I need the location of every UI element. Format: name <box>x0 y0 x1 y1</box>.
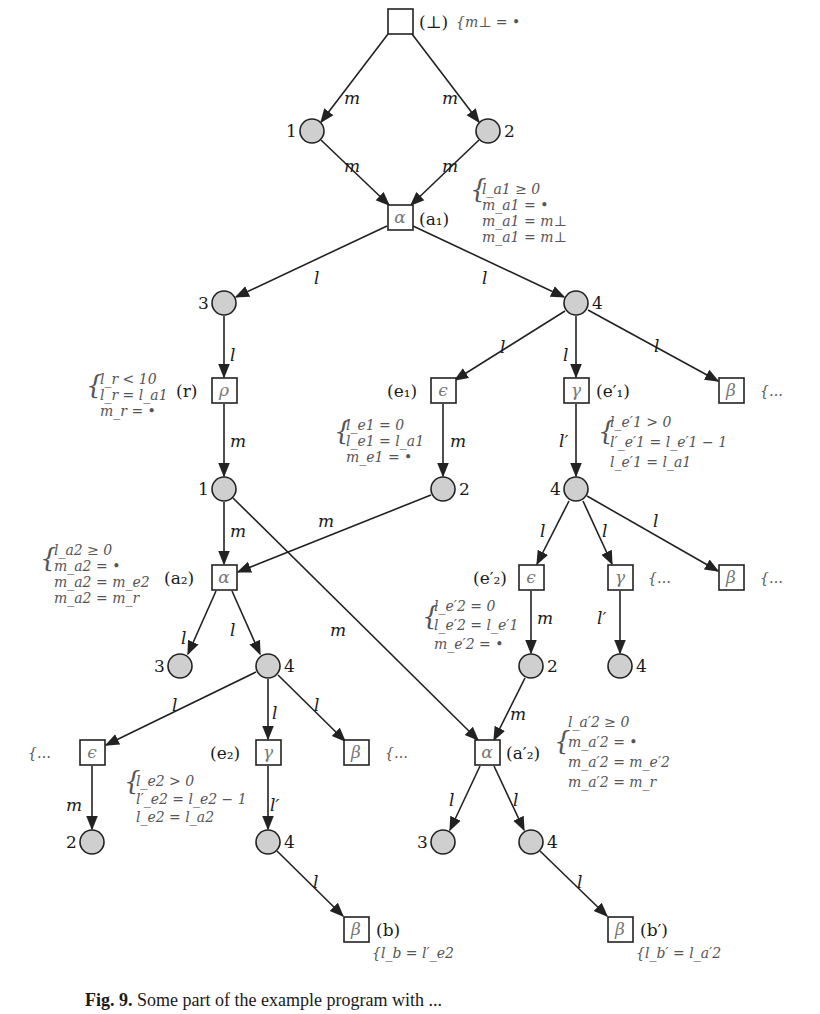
transition-label: (⊥) <box>419 12 448 32</box>
place-node[interactable] <box>564 291 588 315</box>
gamma-symbol: γ <box>263 742 274 762</box>
beta-symbol: β <box>350 919 361 939</box>
constraint-line: {l_b = l′_e2 <box>372 945 454 962</box>
edge-label: l′ <box>597 608 606 628</box>
edge-label: l <box>602 521 607 541</box>
constraint-line: l_a′2 ≥ 0 <box>568 714 630 731</box>
edge-label: m <box>318 511 334 531</box>
alpha-symbol: α <box>394 207 406 227</box>
constraint-line: m_a′2 = m_r <box>568 774 658 791</box>
edge-label: l′ <box>270 795 279 815</box>
place-node[interactable] <box>431 477 455 501</box>
constraint-line: m_a1 = m⊥ <box>482 213 567 230</box>
edge-a2p-n4 <box>494 766 524 830</box>
place-label: 4 <box>636 656 647 676</box>
transition-label: (e₁) <box>387 381 417 401</box>
place-node[interactable] <box>564 477 588 501</box>
edge-label: l <box>500 337 505 357</box>
edge-n4-gamma <box>583 501 612 564</box>
ellipsis: {… <box>385 745 408 761</box>
caption-label: Fig. 9. <box>85 990 133 1010</box>
constraint-line: l_e2 = l_a2 <box>136 809 214 826</box>
place-label: 2 <box>66 832 77 852</box>
edge-label: l <box>172 695 177 715</box>
edge-label: m <box>537 608 553 628</box>
edge-label: m <box>442 156 458 176</box>
beta-symbol: β <box>725 380 736 400</box>
place-label: 4 <box>547 832 558 852</box>
place-label: 4 <box>284 832 295 852</box>
transition-label: (r) <box>176 381 197 401</box>
edge-label: m <box>230 521 246 541</box>
constraint-line: m_a1 = • <box>482 197 548 214</box>
place-label: 2 <box>459 479 470 499</box>
edge-n4-bp <box>540 851 607 916</box>
place-label: 4 <box>550 479 561 499</box>
edge-label: l <box>654 336 659 356</box>
edge-label: l <box>513 790 518 810</box>
edge-label: m <box>510 704 526 724</box>
edge-label: l <box>482 268 487 288</box>
edge-bot-n1 <box>321 34 388 122</box>
place-node[interactable] <box>519 654 543 678</box>
edge-label: m <box>330 620 346 640</box>
place-node[interactable] <box>519 830 543 854</box>
edge-label: l <box>540 521 545 541</box>
transition-label: (a₁) <box>419 209 449 229</box>
constraint-line: l_e′2 = l_e′1 <box>434 617 518 634</box>
edge-n4-beta <box>588 310 718 381</box>
alpha-symbol: α <box>481 742 493 762</box>
constraint-line: m_e′2 = • <box>434 636 504 653</box>
place-label: 1 <box>198 479 209 499</box>
edge-label: l <box>314 695 319 715</box>
transition-label: (b) <box>376 920 400 940</box>
beta-symbol: β <box>614 919 625 939</box>
edge-n4-e1 <box>455 311 565 380</box>
edge-label: l <box>563 345 568 365</box>
place-node[interactable] <box>256 830 280 854</box>
edge-a2p-n3 <box>450 766 480 830</box>
edge-a2-n4 <box>232 591 260 654</box>
place-node[interactable] <box>168 654 192 678</box>
edge-label: m <box>450 431 466 451</box>
place-node[interactable] <box>608 654 632 678</box>
edge-label: l <box>230 345 235 365</box>
figure-caption: Fig. 9. Some part of the example program… <box>85 990 442 1011</box>
place-node[interactable] <box>212 291 236 315</box>
gamma-symbol: γ <box>615 567 626 587</box>
constraint-line: l_e′2 = 0 <box>434 598 495 615</box>
place-node[interactable] <box>256 654 280 678</box>
transition-bottom[interactable] <box>388 9 413 34</box>
ellipsis: {… <box>760 570 783 586</box>
place-node[interactable] <box>80 830 104 854</box>
constraint-line: {l_b′ = l_a′2 <box>636 945 721 962</box>
edge-n4-b <box>277 851 343 916</box>
constraint-line: m_a1 = m⊥ <box>482 229 567 246</box>
place-label: 3 <box>154 656 165 676</box>
edge-label: l <box>653 511 658 531</box>
place-label: 4 <box>592 293 603 313</box>
epsilon-symbol: ϵ <box>438 380 448 400</box>
edge-label: l <box>181 628 186 648</box>
constraint-line: m_e1 = • <box>346 449 412 466</box>
edge-n4-beta3 <box>278 675 345 741</box>
edge-a2-n3 <box>188 591 216 654</box>
edge-label: m <box>230 431 246 451</box>
place-node[interactable] <box>476 119 500 143</box>
place-node[interactable] <box>212 477 236 501</box>
place-label: 3 <box>198 293 209 313</box>
place-node[interactable] <box>431 830 455 854</box>
constraint-line: l_r < 10 <box>100 371 157 388</box>
constraint-line: l_a1 ≥ 0 <box>482 181 540 198</box>
constraint-line: l_r = l_a1 <box>100 387 168 404</box>
edge-label: l <box>577 872 582 892</box>
edge-label: m <box>344 88 360 108</box>
edge-n2-a2 <box>238 495 431 572</box>
gamma-symbol: γ <box>571 380 582 400</box>
transition-label: (e′₂) <box>473 568 507 588</box>
constraint-line: l′_e2 = l_e2 − 1 <box>136 791 247 808</box>
constraint-line: l_e1 = l_a1 <box>346 433 424 450</box>
place-node[interactable] <box>300 119 324 143</box>
constraint-line: m_a′2 = • <box>568 734 638 751</box>
edge-label: l <box>449 790 454 810</box>
